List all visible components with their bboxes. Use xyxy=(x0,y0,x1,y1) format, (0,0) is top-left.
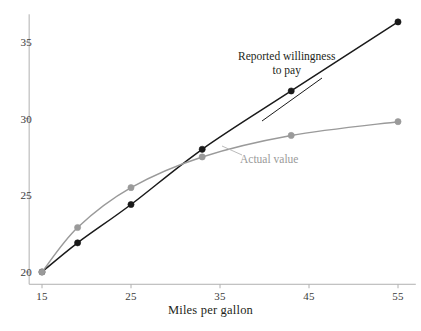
data-point-reported-willingness-to-pay-5 xyxy=(395,19,401,25)
series-line-actual-value xyxy=(42,122,398,272)
series-line-reported-willingness-to-pay xyxy=(42,22,398,272)
data-point-reported-willingness-to-pay-4 xyxy=(288,88,294,94)
data-point-actual-value-0 xyxy=(39,269,45,275)
data-point-actual-value-3 xyxy=(199,154,205,160)
annotation-leader-reported xyxy=(262,78,322,121)
data-point-actual-value-2 xyxy=(128,185,134,191)
x-tick-label-15: 15 xyxy=(36,290,47,302)
data-point-actual-value-5 xyxy=(395,119,401,125)
y-tick-label-20: 20 xyxy=(10,266,32,278)
x-tick-label-35: 35 xyxy=(214,290,225,302)
data-point-actual-value-4 xyxy=(288,132,294,138)
x-tick-label-55: 55 xyxy=(392,290,403,302)
series-annotation-actual-value: Actual value xyxy=(240,152,298,166)
annotation-reported-line1: Reported willingness xyxy=(238,49,335,63)
annotation-reported-line2: to pay xyxy=(238,63,335,77)
chart-figure: 35 30 25 20 15 25 35 45 55 Miles per gal… xyxy=(0,0,421,331)
series-annotation-reported-willingness-to-pay: Reported willingness to pay xyxy=(238,49,335,77)
x-tick-label-45: 45 xyxy=(303,290,314,302)
data-point-reported-willingness-to-pay-2 xyxy=(128,201,134,207)
line-chart-plot xyxy=(0,0,421,331)
x-axis-title: Miles per gallon xyxy=(0,303,421,318)
data-point-actual-value-1 xyxy=(75,224,81,230)
y-tick-label-35: 35 xyxy=(10,36,32,48)
y-tick-label-25: 25 xyxy=(10,189,32,201)
data-point-reported-willingness-to-pay-1 xyxy=(75,240,81,246)
y-tick-label-30: 30 xyxy=(10,113,32,125)
data-point-reported-willingness-to-pay-3 xyxy=(199,146,205,152)
x-tick-label-25: 25 xyxy=(125,290,136,302)
